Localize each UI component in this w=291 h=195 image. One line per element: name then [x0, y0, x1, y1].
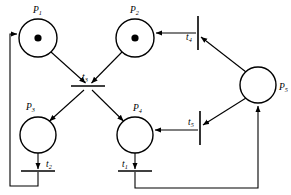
place-layer	[19, 19, 276, 153]
label-transition-t1: t1	[122, 159, 128, 170]
petri-net-canvas: P1 P2 P3 P4 P5 t1 t2 t3 t4 t5	[0, 0, 291, 195]
label-transition-t3: t3	[82, 72, 88, 83]
arc-p1-t3	[51, 52, 86, 83]
arc-t1-p5	[135, 106, 258, 188]
label-place-p2: P2	[129, 5, 139, 16]
arc-t3-p3	[50, 90, 85, 121]
label-place-p4: P4	[132, 103, 142, 114]
arc-p2-t3	[92, 52, 123, 83]
petri-net-diagram: P1 P2 P3 P4 P5 t1 t2 t3 t4 t5	[0, 0, 291, 195]
place-p4[interactable]	[117, 117, 153, 153]
label-transition-t2: t2	[46, 159, 52, 170]
token-p2	[131, 34, 138, 41]
label-transition-t4: t4	[186, 32, 192, 43]
label-place-p5: P5	[278, 82, 288, 93]
place-p5[interactable]	[240, 67, 276, 103]
arc-p5-t5	[203, 98, 246, 125]
label-place-p3: P3	[25, 102, 35, 113]
label-transition-t5: t5	[188, 117, 194, 128]
arc-t3-p4	[92, 90, 124, 121]
arc-p5-t4	[201, 37, 246, 72]
place-p3[interactable]	[20, 117, 56, 153]
label-place-p1: P1	[32, 5, 42, 16]
token-p1	[34, 34, 41, 41]
